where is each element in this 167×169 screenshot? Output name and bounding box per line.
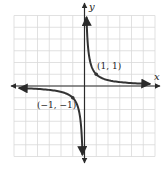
point-label-pos: (1, 1) [97, 61, 121, 71]
y-axis-label: y [88, 1, 95, 12]
point-marker-pos [94, 72, 98, 76]
x-axis-label: x [154, 71, 160, 82]
point-marker-neg [71, 96, 75, 100]
reciprocal-function-graph: x y (1, 1) (−1, −1) [0, 0, 167, 169]
point-label-neg: (−1, −1) [37, 100, 76, 110]
